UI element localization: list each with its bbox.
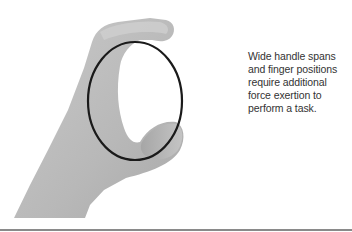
figure: Wide handle spans and finger positions r… — [0, 0, 352, 232]
caption-text: Wide handle spans and finger positions r… — [248, 50, 352, 115]
bottom-divider — [0, 229, 352, 231]
hand-shape — [14, 18, 183, 218]
hand-illustration — [0, 0, 240, 232]
